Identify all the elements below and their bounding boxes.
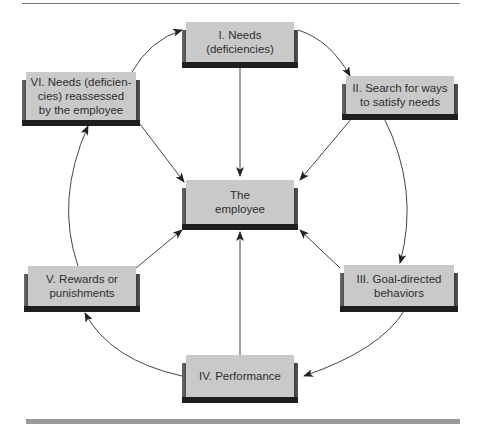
hub-label-line: The	[215, 188, 265, 202]
arrow-II-to-III	[384, 118, 407, 263]
spoke-V-to-hub	[136, 230, 182, 268]
stage-label-line: V. Rewards or	[46, 272, 118, 286]
stage-label-line: punishments	[46, 286, 118, 300]
stage-II-search: II. Search for ways to satisfy needs	[342, 76, 458, 120]
stage-label-line: VI. Needs (deficien-	[31, 75, 132, 89]
box-face: The employee	[186, 180, 294, 224]
stage-label-line: III. Goal-directed	[356, 272, 441, 286]
arrow-I-to-II	[298, 30, 350, 76]
stage-label-line: behaviors	[356, 286, 441, 300]
box-face: IV. Performance	[186, 355, 294, 397]
arrow-III-to-IV	[304, 311, 404, 376]
bottom-rule-bar	[26, 419, 460, 424]
box-face: V. Rewards or punishments	[28, 266, 136, 306]
arrow-IV-to-V	[85, 313, 182, 376]
stage-V-rewards: V. Rewards or punishments	[24, 266, 140, 312]
box-face: VI. Needs (deficien- cies) reassessed by…	[26, 72, 136, 120]
spoke-II-to-hub	[300, 118, 352, 180]
arrow-VI-to-I	[132, 30, 182, 72]
stage-label-line: to satisfy needs	[352, 95, 447, 109]
hub-label-line: employee	[215, 202, 265, 216]
spoke-VI-to-hub	[140, 124, 184, 182]
box-face: I. Needs (deficiencies)	[186, 22, 294, 62]
stage-I-needs: I. Needs (deficiencies)	[182, 22, 298, 68]
stage-label-line: by the employee	[31, 103, 132, 117]
box-face: III. Goal-directed behaviors	[344, 265, 454, 306]
stage-label-line: I. Needs	[206, 28, 274, 42]
stage-label-line: IV. Performance	[199, 369, 281, 383]
stage-label-line: cies) reassessed	[31, 89, 132, 103]
arrow-V-to-VI	[69, 126, 88, 266]
stage-IV-performance: IV. Performance	[182, 355, 298, 403]
hub-the-employee: The employee	[182, 180, 298, 230]
stage-label-line: II. Search for ways	[352, 81, 447, 95]
stage-III-goal-directed: III. Goal-directed behaviors	[340, 265, 458, 312]
spoke-III-to-hub	[300, 230, 340, 268]
stage-VI-needs-reassessed: VI. Needs (deficien- cies) reassessed by…	[22, 72, 140, 126]
box-face: II. Search for ways to satisfy needs	[346, 76, 454, 114]
stage-label-line: (deficiencies)	[206, 42, 274, 56]
